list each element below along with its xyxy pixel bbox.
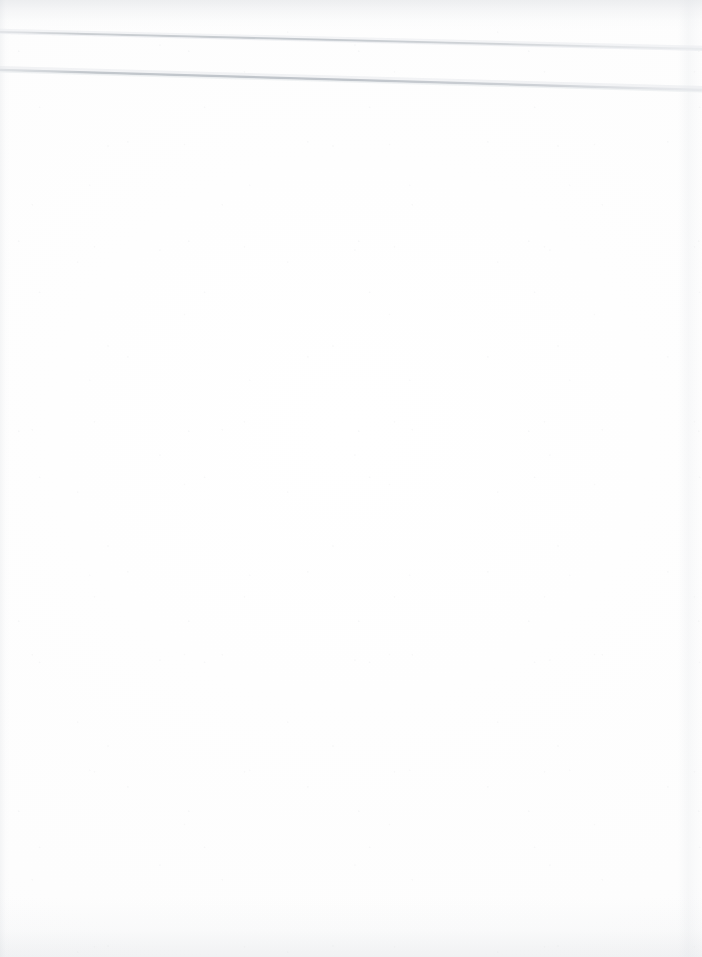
- bottom-edge-shading: [0, 897, 702, 957]
- scanned-page: [0, 0, 702, 957]
- left-edge-shading: [0, 0, 10, 957]
- paper-grain-texture: [0, 0, 702, 957]
- top-edge-shading: [0, 0, 702, 30]
- right-edge-shading-band: [678, 0, 702, 957]
